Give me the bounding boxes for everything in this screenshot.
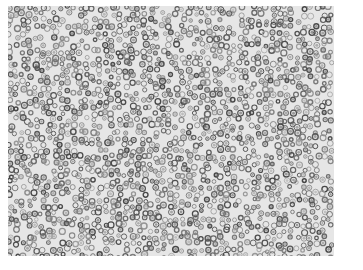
micrograph-image	[8, 6, 334, 256]
cell-field	[8, 6, 334, 256]
